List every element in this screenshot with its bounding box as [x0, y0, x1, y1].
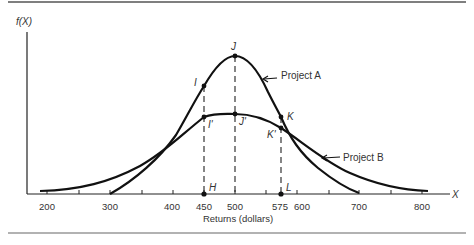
svg-text:575: 575	[272, 201, 288, 212]
svg-text:700: 700	[351, 201, 367, 212]
point-H	[201, 191, 206, 196]
point-I-prime	[202, 115, 207, 120]
point-I	[202, 84, 207, 89]
label-K-prime: K'	[267, 129, 277, 140]
svg-text:450: 450	[196, 201, 212, 212]
label-J-prime: J'	[238, 116, 247, 127]
point-J-prime	[233, 112, 238, 117]
legend-project-a: Project A	[281, 70, 321, 81]
x-axis-symbol: X	[451, 189, 459, 200]
label-H: H	[209, 182, 217, 193]
x-axis-title: Returns (dollars)	[203, 213, 273, 224]
legend-project-b: Project B	[343, 152, 384, 163]
label-L: L	[286, 182, 292, 193]
normal-distribution-chart: J J' I I' K K' H L Project A Project B f…	[0, 0, 474, 245]
svg-text:300: 300	[102, 201, 118, 212]
x-tick-labels: 200 300 400 450 500 575 600 700 800	[39, 201, 430, 212]
series-arrows	[263, 76, 340, 161]
label-J: J	[230, 41, 237, 52]
point-K-prime	[279, 126, 284, 131]
svg-text:200: 200	[39, 201, 55, 212]
label-I: I	[194, 77, 197, 88]
svg-text:500: 500	[227, 201, 243, 212]
y-axis-label: f(X)	[16, 16, 32, 27]
svg-text:600: 600	[294, 201, 310, 212]
point-J	[233, 54, 238, 59]
point-L	[278, 191, 283, 196]
label-K: K	[287, 111, 295, 122]
svg-text:800: 800	[414, 201, 430, 212]
svg-text:400: 400	[164, 201, 180, 212]
label-I-prime: I'	[208, 119, 214, 130]
point-K	[279, 115, 284, 120]
